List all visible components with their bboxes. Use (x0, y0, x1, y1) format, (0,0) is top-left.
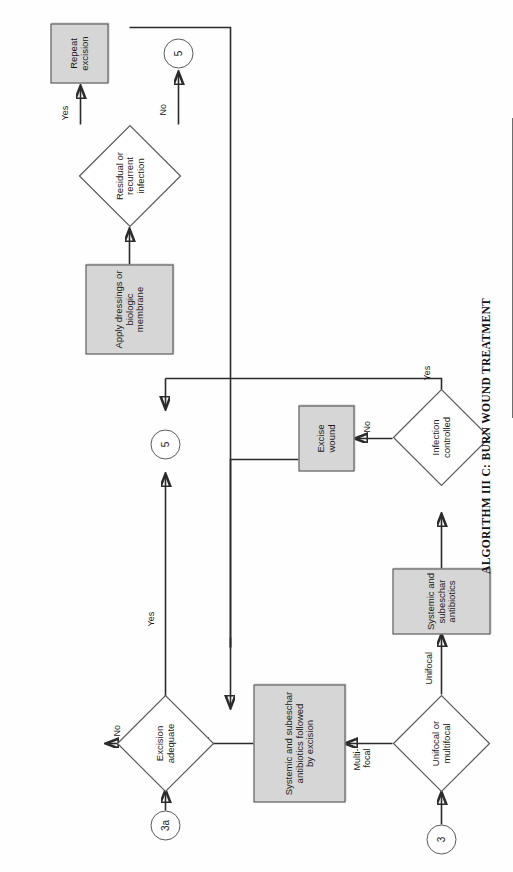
edge-label-excision-no: No (112, 724, 122, 736)
connector-5-top[interactable]: 5 (163, 38, 193, 68)
connector-3a[interactable]: 3a (150, 810, 180, 840)
figure-caption-text: ALGORITHM III C: BURN WOUND TREATMENT (480, 298, 492, 574)
connector-5-middle[interactable]: 5 (150, 429, 180, 459)
process-apply-dressings[interactable]: Apply dressings or biologic membrane (85, 264, 173, 354)
edge-label-multifocal: Multi- focal (352, 748, 372, 776)
process-repeat-excision[interactable]: Repeat excision (50, 23, 108, 83)
process-systemic-subeschar-antibiotics-excision-label: Systemic and subeschar antibiotics follo… (283, 691, 315, 795)
connector-5-middle-label: 5 (159, 441, 170, 447)
process-repeat-excision-label: Repeat excision (68, 27, 89, 79)
connector-5-top-label: 5 (172, 50, 183, 56)
decision-residual-or-recurrent-infection[interactable]: Residual or recurrent infection (78, 124, 181, 227)
edge-label-residual-no: No (158, 103, 168, 115)
process-systemic-subeschar-antibiotics-label: Systemic and subeschar antibiotics (425, 572, 457, 630)
edge-label-unifocal: Unifocal (424, 651, 434, 684)
edge-label-infection-yes: Yes (422, 365, 432, 380)
process-excise-wound-label: Excise wound (315, 409, 336, 467)
edge-label-residual-yes: Yes (60, 105, 70, 120)
process-apply-dressings-label: Apply dressings or biologic membrane (113, 270, 145, 348)
page-canvas: 3 Unifocal or multifocal Unifocal Multi-… (0, 0, 513, 872)
decision-excision-adequate[interactable]: Excision adequate (116, 694, 214, 792)
edge-label-excision-yes: Yes (146, 611, 156, 626)
edge-label-infection-no: No (362, 420, 372, 432)
flowchart-stage: 3 Unifocal or multifocal Unifocal Multi-… (0, 0, 513, 872)
connector-3-label: 3 (435, 836, 446, 842)
figure-caption: ALGORITHM III C: BURN WOUND TREATMENT (469, 0, 503, 872)
process-systemic-subeschar-antibiotics-excision[interactable]: Systemic and subeschar antibiotics follo… (253, 684, 345, 802)
connector-3a-label: 3a (159, 819, 170, 830)
connector-3[interactable]: 3 (426, 824, 456, 854)
process-excise-wound[interactable]: Excise wound (298, 405, 354, 471)
